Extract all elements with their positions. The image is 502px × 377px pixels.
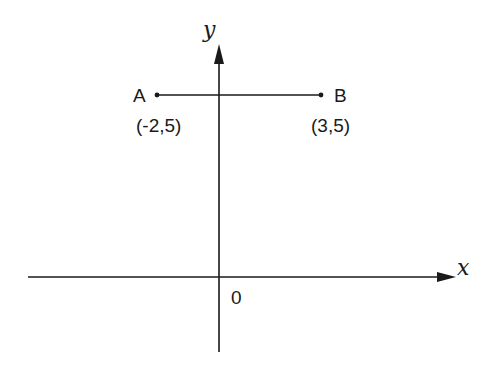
point-b-label: B <box>334 86 347 105</box>
y-axis-arrowhead-icon <box>214 44 224 64</box>
x-axis <box>28 272 456 282</box>
segment-ab <box>155 93 324 98</box>
point-b-dot <box>319 93 324 98</box>
point-b-coords: (3,5) <box>311 116 350 135</box>
y-axis-label: y <box>203 19 215 41</box>
y-axis <box>214 44 224 352</box>
x-axis-label: x <box>457 257 469 279</box>
x-axis-arrowhead-icon <box>437 272 456 282</box>
coordinate-plane <box>0 0 502 377</box>
origin-label: 0 <box>231 288 242 307</box>
point-a-dot <box>155 93 160 98</box>
point-a-label: A <box>133 86 146 105</box>
point-a-coords: (-2,5) <box>136 116 181 135</box>
